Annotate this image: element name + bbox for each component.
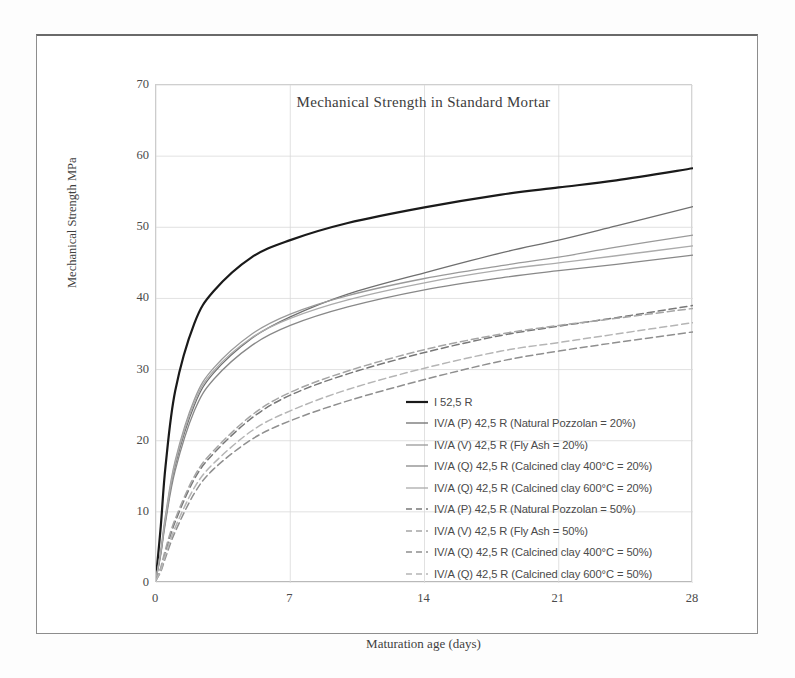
legend-item-label: IV/A (P) 42,5 R (Natural Pozzolan = 50%) [434, 503, 636, 515]
legend-item-label: IV/A (V) 42,5 R (Fly Ash = 20%) [434, 439, 588, 451]
legend-line-swatch-icon [405, 461, 429, 471]
x-tick-label: 21 [538, 592, 578, 605]
legend-item[interactable]: IV/A (Q) 42,5 R (Calcined clay 400°C = 5… [405, 542, 705, 564]
legend-line-swatch-icon [405, 418, 429, 428]
legend-item[interactable]: IV/A (Q) 42,5 R (Calcined clay 600°C = 5… [405, 563, 705, 585]
x-axis-title: Maturation age (days) [155, 636, 692, 652]
y-tick-label: 70 [115, 78, 149, 91]
y-axis-tick-labels: 706050403020100 [111, 84, 149, 582]
legend-item[interactable]: IV/A (Q) 42,5 R (Calcined clay 400°C = 2… [405, 456, 705, 478]
y-tick-label: 30 [115, 363, 149, 376]
x-tick-label: 0 [135, 592, 175, 605]
legend-item-label: IV/A (Q) 42,5 R (Calcined clay 600°C = 5… [434, 568, 652, 580]
legend-line-swatch-icon [405, 483, 429, 493]
legend-line-swatch-icon [405, 440, 429, 450]
legend-item-label: IV/A (Q) 42,5 R (Calcined clay 400°C = 5… [434, 546, 652, 558]
legend-line-swatch-icon [405, 526, 429, 536]
legend-item-label: IV/A (V) 42,5 R (Fly Ash = 50%) [434, 525, 588, 537]
legend-item-label: IV/A (Q) 42,5 R (Calcined clay 600°C = 2… [434, 482, 652, 494]
x-tick-label: 14 [404, 592, 444, 605]
x-tick-label: 28 [672, 592, 712, 605]
y-tick-label: 40 [115, 291, 149, 304]
legend-line-swatch-icon [405, 547, 429, 557]
legend-item-label: IV/A (P) 42,5 R (Natural Pozzolan = 20%) [434, 417, 636, 429]
y-tick-label: 10 [115, 505, 149, 518]
y-tick-label: 60 [115, 149, 149, 162]
legend-item[interactable]: IV/A (P) 42,5 R (Natural Pozzolan = 20%) [405, 413, 705, 435]
x-axis-tick-labels: 07142128 [155, 592, 692, 610]
y-axis-title: Mechanical Strength MPa [65, 88, 80, 288]
legend-item[interactable]: I 52,5 R [405, 391, 705, 413]
y-tick-label: 50 [115, 220, 149, 233]
chart-legend: I 52,5 RIV/A (P) 42,5 R (Natural Pozzola… [405, 391, 705, 585]
chart-outer-frame: 706050403020100 Mechanical Strength in S… [36, 34, 758, 634]
y-tick-label: 0 [115, 576, 149, 589]
x-tick-label: 7 [269, 592, 309, 605]
chart-title: Mechanical Strength in Standard Mortar [155, 94, 692, 111]
y-tick-label: 20 [115, 434, 149, 447]
chart-figure: 706050403020100 Mechanical Strength in S… [0, 0, 795, 678]
legend-item[interactable]: IV/A (Q) 42,5 R (Calcined clay 600°C = 2… [405, 477, 705, 499]
legend-line-swatch-icon [405, 569, 429, 579]
legend-line-swatch-icon [405, 397, 429, 407]
legend-item[interactable]: IV/A (P) 42,5 R (Natural Pozzolan = 50%) [405, 499, 705, 521]
legend-item-label: IV/A (Q) 42,5 R (Calcined clay 400°C = 2… [434, 460, 652, 472]
legend-item[interactable]: IV/A (V) 42,5 R (Fly Ash = 50%) [405, 520, 705, 542]
legend-line-swatch-icon [405, 504, 429, 514]
legend-item[interactable]: IV/A (V) 42,5 R (Fly Ash = 20%) [405, 434, 705, 456]
legend-item-label: I 52,5 R [434, 396, 472, 408]
